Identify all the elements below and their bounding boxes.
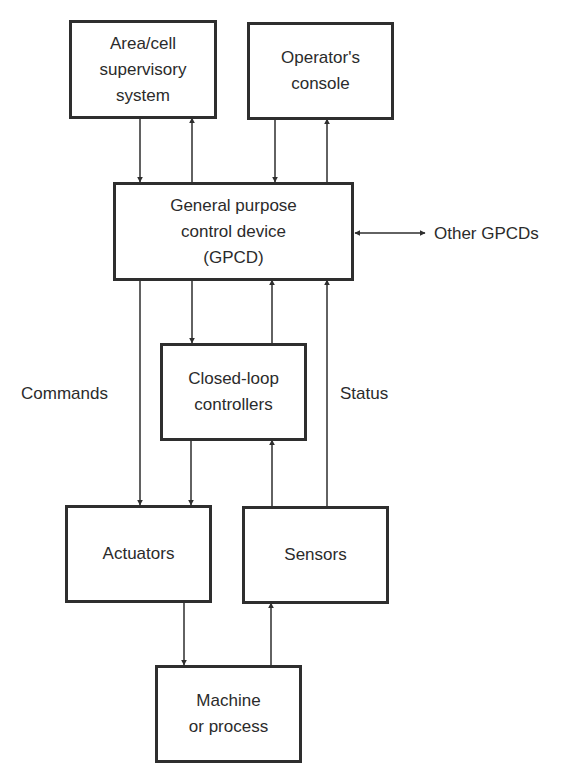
actuators-box: Actuators	[65, 505, 212, 603]
closed-loop-controllers-label: Closed-loop controllers	[188, 366, 279, 418]
sensors-box: Sensors	[242, 506, 389, 604]
operators-console-label: Operator's console	[281, 45, 360, 97]
other-gpcds-label: Other GPCDs	[434, 224, 539, 244]
operators-console-box: Operator's console	[247, 22, 394, 120]
gpcd-box: General purpose control device (GPCD)	[113, 182, 354, 281]
sensors-label: Sensors	[284, 542, 346, 568]
machine-or-process-box: Machine or process	[155, 665, 302, 763]
commands-label: Commands	[21, 384, 108, 404]
area-cell-supervisory-label: Area/cell supervisory system	[100, 31, 187, 109]
gpcd-label: General purpose control device (GPCD)	[170, 193, 297, 271]
actuators-label: Actuators	[103, 541, 175, 567]
status-label: Status	[340, 384, 388, 404]
area-cell-supervisory-box: Area/cell supervisory system	[69, 20, 217, 119]
machine-or-process-label: Machine or process	[189, 688, 268, 740]
closed-loop-controllers-box: Closed-loop controllers	[160, 343, 307, 441]
